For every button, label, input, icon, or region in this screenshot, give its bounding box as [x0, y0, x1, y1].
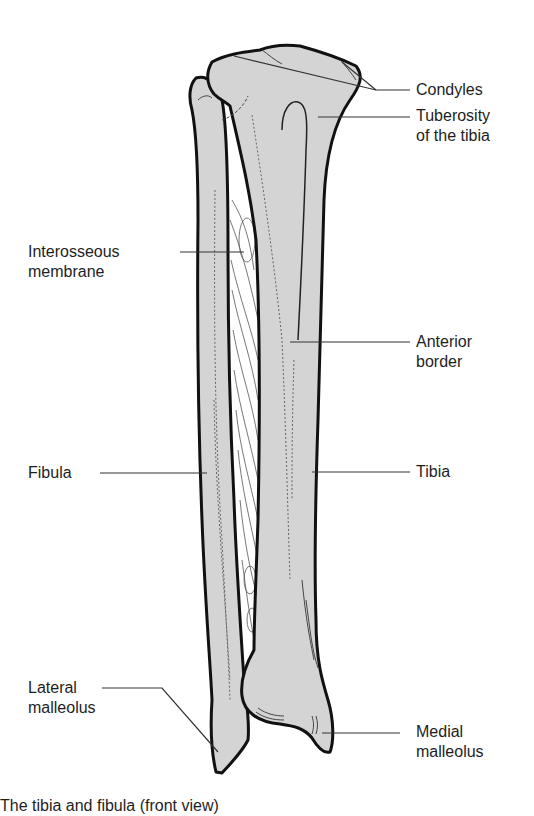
label-condyles-text: Condyles	[416, 81, 483, 98]
label-lateral-line1: Lateral	[28, 678, 96, 698]
figure-caption: The tibia and fibula (front view)	[0, 796, 219, 816]
label-medial-malleolus: Medial malleolus	[416, 722, 484, 762]
label-tuberosity-line2: of the tibia	[416, 126, 490, 146]
label-fibula: Fibula	[28, 463, 72, 483]
label-medial-line2: malleolus	[416, 742, 484, 762]
label-lateral-line2: malleolus	[28, 698, 96, 718]
label-anterior-line2: border	[416, 352, 472, 372]
label-condyles: Condyles	[416, 80, 483, 100]
label-fibula-text: Fibula	[28, 464, 72, 481]
label-interosseous-line2: membrane	[28, 262, 120, 282]
label-interosseous-line1: Interosseous	[28, 242, 120, 262]
label-tuberosity: Tuberosity of the tibia	[416, 106, 490, 146]
label-lateral-malleolus: Lateral malleolus	[28, 678, 96, 718]
label-tibia: Tibia	[416, 462, 450, 482]
label-medial-line1: Medial	[416, 722, 484, 742]
label-interosseous-membrane: Interosseous membrane	[28, 242, 120, 282]
label-anterior-line1: Anterior	[416, 332, 472, 352]
label-tuberosity-line1: Tuberosity	[416, 106, 490, 126]
label-tibia-text: Tibia	[416, 463, 450, 480]
label-anterior-border: Anterior border	[416, 332, 472, 372]
